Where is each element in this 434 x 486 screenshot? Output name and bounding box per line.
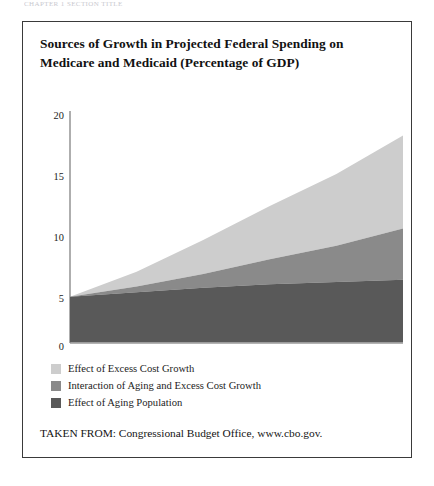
figure-title: Sources of Growth in Projected Federal S…: [40, 35, 390, 72]
y-tick-label-10: 10: [54, 232, 64, 243]
x-tick-label-2052: 2052: [259, 348, 280, 350]
legend-item-interaction: Interaction of Aging and Excess Cost Gro…: [51, 377, 391, 394]
figure-title-line-1: Sources of Growth in Projected Federal S…: [40, 35, 390, 54]
legend-label-aging-population: Effect of Aging Population: [68, 396, 182, 409]
y-tick-label-15: 15: [54, 171, 64, 182]
chart-plot-area: 20 15 10 5 0 2007 2022 2037 2052: [23, 80, 413, 350]
x-tick-label-2022: 2022: [126, 348, 147, 350]
x-axis-tick-labels: 2007 2022 2037 2052 2067 2082: [60, 348, 413, 350]
legend-label-interaction: Interaction of Aging and Excess Cost Gro…: [68, 379, 261, 392]
legend-label-excess-cost-growth: Effect of Excess Cost Growth: [68, 362, 194, 375]
legend-item-excess-cost-growth: Effect of Excess Cost Growth: [51, 360, 391, 377]
stacked-area-chart: 20 15 10 5 0 2007 2022 2037 2052: [23, 80, 413, 350]
x-tick-label-2082: 2082: [392, 348, 413, 350]
figure-title-line-2: Medicare and Medicaid (Percentage of GDP…: [40, 54, 390, 73]
x-tick-label-2037: 2037: [193, 348, 214, 350]
running-head: CHAPTER 1 SECTION TITLE: [24, 0, 204, 7]
figure-source-line: TAKEN FROM: Congressional Budget Office,…: [40, 426, 400, 441]
x-tick-label-2007: 2007: [60, 348, 81, 350]
legend-swatch-excess-cost-growth: [51, 364, 61, 374]
y-tick-label-20: 20: [54, 110, 64, 121]
x-tick-label-2067: 2067: [326, 348, 347, 350]
chart-legend: Effect of Excess Cost Growth Interaction…: [51, 360, 391, 411]
legend-swatch-interaction: [51, 381, 61, 391]
legend-swatch-aging-population: [51, 398, 61, 408]
y-tick-label-5: 5: [59, 293, 64, 304]
figure-container: Sources of Growth in Projected Federal S…: [22, 21, 412, 458]
legend-item-aging-population: Effect of Aging Population: [51, 394, 391, 411]
y-axis-tick-labels: 20 15 10 5 0: [54, 110, 64, 350]
